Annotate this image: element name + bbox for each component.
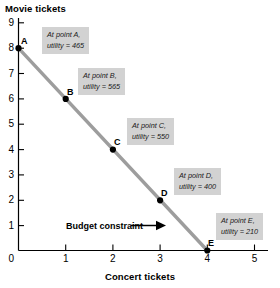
point-label-d: D (161, 188, 168, 198)
x-tick-label-4: 4 (199, 253, 215, 264)
annotation-point-b: At point B, utility = 565 (78, 68, 125, 95)
data-point-a (15, 45, 21, 51)
annotation-c-line1: At point C, (132, 121, 169, 132)
annotation-point-c: At point C, utility = 550 (127, 118, 174, 145)
point-label-c: C (114, 137, 121, 147)
annotation-e-line1: At point E, (221, 216, 258, 227)
chart-figure: Movie tickets Concert tickets (0, 0, 280, 288)
x-axis-ticks (66, 245, 255, 251)
y-tick-label-1: 1 (0, 220, 14, 231)
x-tick-label-5: 5 (247, 253, 263, 264)
budget-constraint-label: Budget constraint (66, 221, 143, 231)
y-tick-label-8: 8 (0, 42, 14, 53)
annotation-point-d: At point D, utility = 400 (174, 168, 221, 195)
annotation-c-line2: utility = 550 (132, 132, 169, 143)
annotation-a-line2: utility = 465 (47, 41, 84, 52)
data-point-d (157, 197, 163, 203)
annotation-point-e: At point E, utility = 210 (216, 213, 263, 240)
annotation-point-a: At point A, utility = 465 (42, 27, 89, 54)
y-tick-label-5: 5 (0, 118, 14, 129)
annotation-d-line2: utility = 400 (179, 182, 216, 193)
y-tick-label-9: 9 (0, 17, 14, 28)
x-tick-label-3: 3 (152, 253, 168, 264)
annotation-a-line1: At point A, (47, 30, 84, 41)
annotation-e-line2: utility = 210 (221, 227, 258, 238)
point-label-b: B (67, 87, 74, 97)
y-tick-label-0: 0 (0, 253, 14, 264)
y-tick-label-4: 4 (0, 144, 14, 155)
y-tick-label-6: 6 (0, 93, 14, 104)
point-label-a: A (21, 36, 28, 46)
x-tick-label-2: 2 (105, 253, 121, 264)
data-point-b (63, 96, 69, 102)
point-label-e: E (208, 238, 214, 248)
y-tick-label-7: 7 (0, 68, 14, 79)
data-point-c (110, 147, 116, 153)
x-tick-label-1: 1 (58, 253, 74, 264)
annotation-b-line2: utility = 565 (83, 82, 120, 93)
annotation-b-line1: At point B, (83, 71, 120, 82)
y-tick-label-2: 2 (0, 194, 14, 205)
y-tick-label-3: 3 (0, 169, 14, 180)
annotation-d-line1: At point D, (179, 171, 216, 182)
